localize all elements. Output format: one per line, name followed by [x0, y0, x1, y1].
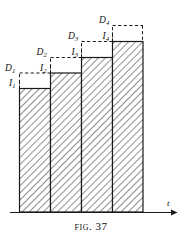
figure-caption: Fig.37 [0, 220, 182, 232]
increment-label-2: D2 [37, 48, 47, 58]
axis-arrow-icon [171, 209, 178, 215]
bar-1 [20, 89, 51, 213]
x-axis-label: t [167, 198, 170, 208]
level-label-3: I3 [72, 48, 78, 58]
step-bar-diagram: I1 I2 I3 I4 D1 D2 D3 D4 t [0, 0, 182, 243]
level-label-2: I2 [40, 64, 46, 74]
increment-bracket-3 [82, 42, 113, 58]
bar-3 [82, 58, 113, 213]
bar-4 [113, 42, 144, 213]
increment-label-4: D4 [99, 16, 109, 26]
caption-number: 37 [95, 220, 107, 232]
increment-bracket-2 [51, 58, 82, 74]
increment-label-3: D3 [68, 32, 78, 42]
increment-bracket-1 [20, 73, 51, 89]
level-label-1: I1 [9, 79, 15, 89]
bar-2 [51, 73, 82, 212]
figure-container: I1 I2 I3 I4 D1 D2 D3 D4 t Fig.37 [0, 0, 182, 243]
level-label-4: I4 [103, 32, 109, 42]
increment-label-1: D1 [5, 64, 15, 74]
caption-prefix: Fig. [74, 220, 92, 232]
increment-bracket-4 [113, 26, 144, 42]
diagram-canvas [0, 0, 182, 243]
